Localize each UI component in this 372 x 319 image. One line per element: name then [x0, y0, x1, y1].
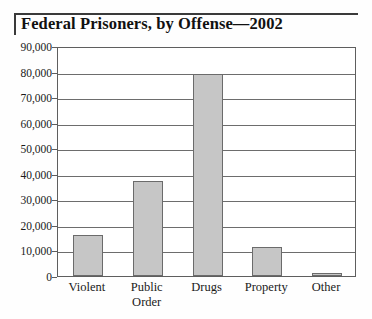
- y-tick-label: 20,000: [0, 221, 52, 232]
- x-tick-label: Property: [236, 280, 296, 295]
- bar: [133, 181, 163, 276]
- chart-figure: Federal Prisoners, by Offense—2002 90,00…: [0, 0, 372, 319]
- chart-title: Federal Prisoners, by Offense—2002: [21, 14, 283, 34]
- bar: [193, 74, 223, 276]
- x-tick-label: Other: [296, 280, 356, 295]
- x-tick-label: Public Order: [117, 280, 177, 310]
- y-tick-label: 0: [0, 272, 52, 283]
- y-tick-label: 50,000: [0, 144, 52, 155]
- y-tick-label: 10,000: [0, 246, 52, 257]
- y-tick-mark: [52, 277, 57, 278]
- x-axis: ViolentPublic OrderDrugsPropertyOther: [57, 280, 356, 319]
- plot-area: [57, 47, 356, 277]
- y-tick-label: 40,000: [0, 170, 52, 181]
- x-tick-label: Violent: [57, 280, 117, 295]
- y-tick-label: 70,000: [0, 93, 52, 104]
- y-tick-label: 80,000: [0, 68, 52, 79]
- y-tick-label: 30,000: [0, 195, 52, 206]
- bar: [312, 273, 342, 276]
- y-tick-label: 60,000: [0, 119, 52, 130]
- y-axis: 90,00080,00070,00060,00050,00040,00030,0…: [0, 47, 52, 277]
- y-tick-label: 90,000: [0, 42, 52, 53]
- bar: [252, 247, 282, 276]
- bar: [73, 235, 103, 276]
- title-left-marker: [14, 15, 16, 35]
- x-tick-label: Drugs: [177, 280, 237, 295]
